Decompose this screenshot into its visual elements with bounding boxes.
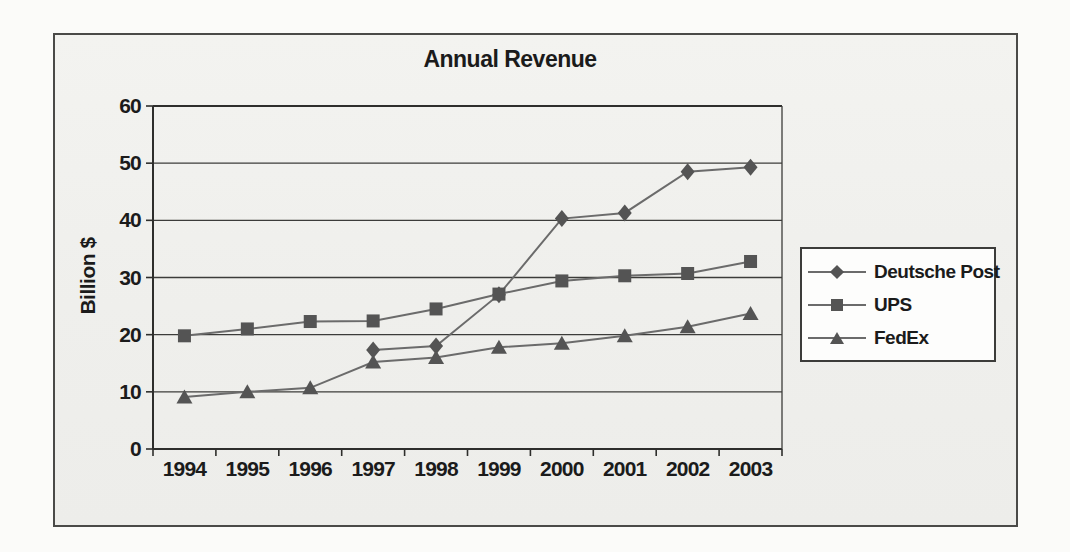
x-tick-label: 1994 [152,457,216,481]
triangle-marker-icon [743,306,759,320]
x-tick-label: 2003 [719,457,783,481]
square-marker-icon [831,299,843,311]
y-tick-label: 60 [97,94,141,118]
legend-label-fedex: FedEx [874,327,929,349]
y-tick-label: 40 [97,208,141,232]
diamond-marker-icon [681,163,695,180]
fedex-triangle-marker-icon [808,330,866,346]
diamond-marker-icon [618,204,632,221]
square-marker-icon [178,329,191,342]
legend-label-ups: UPS [874,294,912,316]
ups-square-marker-icon [808,297,866,313]
chart-page: Annual Revenue Billion $ 010203040506019… [0,0,1070,552]
square-marker-icon [744,255,757,268]
square-marker-icon [430,302,443,315]
x-tick-label: 2001 [593,457,657,481]
square-marker-icon [241,322,254,335]
square-marker-icon [304,315,317,328]
square-marker-icon [367,314,380,327]
legend-box: Deutsche Post UPS FedEx [800,247,996,362]
x-tick-label: 1998 [404,457,468,481]
y-tick-label: 10 [97,380,141,404]
x-tick-label: 1996 [278,457,342,481]
diamond-marker-icon [744,159,758,176]
legend-item-ups: UPS [802,290,994,320]
x-tick-label: 1997 [341,457,405,481]
x-tick-label: 2002 [656,457,720,481]
square-marker-icon [618,269,631,282]
square-marker-icon [492,288,505,301]
y-tick-label: 0 [97,437,141,461]
series-line-ups [184,261,750,335]
y-tick-label: 30 [97,266,141,290]
series-line-deutsche-post [373,167,750,350]
square-marker-icon [681,267,694,280]
x-tick-label: 2000 [530,457,594,481]
x-tick-label: 1995 [215,457,279,481]
legend-label-deutsche-post: Deutsche Post [874,261,999,283]
deutsche-post-diamond-marker-icon [808,264,866,280]
x-tick-label: 1999 [467,457,531,481]
y-tick-label: 50 [97,151,141,175]
legend-item-fedex: FedEx [802,323,994,353]
y-tick-label: 20 [97,323,141,347]
diamond-marker-icon [830,264,844,278]
triangle-marker-icon [830,332,844,344]
legend-item-deutsche-post: Deutsche Post [802,257,994,287]
square-marker-icon [555,274,568,287]
chart-title: Annual Revenue [310,46,710,73]
